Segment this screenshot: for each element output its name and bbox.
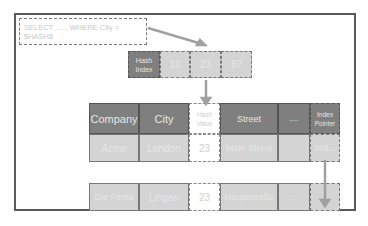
query-to-hash-arrow	[148, 28, 202, 44]
arrows	[0, 0, 368, 226]
